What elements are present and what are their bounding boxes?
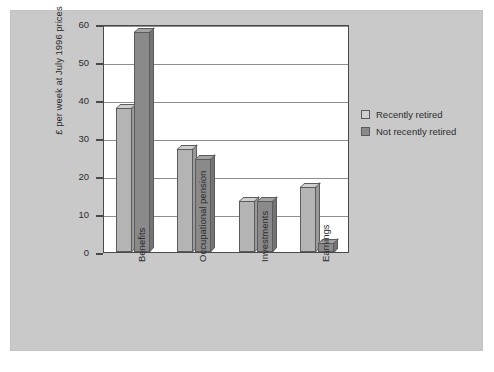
x-axis-label: Investments xyxy=(260,211,270,262)
y-axis-tick-label: 40 xyxy=(63,96,89,106)
y-axis-tick xyxy=(96,25,103,27)
y-axis-tick xyxy=(96,101,103,103)
chart-panel: £ per week at July 1996 prices 010203040… xyxy=(11,11,482,350)
bar-front-face xyxy=(116,108,132,252)
legend-item[interactable]: Recently retired xyxy=(361,106,456,123)
bar-front-face xyxy=(239,201,255,252)
bar xyxy=(239,201,255,252)
bar-front-face xyxy=(300,187,316,252)
y-axis-tick xyxy=(96,63,103,65)
bar-side-face xyxy=(211,154,215,252)
y-axis-tick-label: 10 xyxy=(63,210,89,220)
gridline xyxy=(104,26,348,27)
y-axis-tick xyxy=(96,253,103,255)
x-axis-label: Occupational pension xyxy=(198,171,208,262)
legend-label: Not recently retired xyxy=(376,126,456,137)
legend-label: Recently retired xyxy=(376,109,443,120)
legend-swatch-not-recently-retired xyxy=(361,127,370,136)
y-axis-tick xyxy=(96,139,103,141)
bar xyxy=(116,108,132,252)
bar-side-face xyxy=(150,27,154,252)
chart-figure: £ per week at July 1996 prices 010203040… xyxy=(0,0,494,372)
legend-swatch-recently-retired xyxy=(361,110,370,119)
y-axis-tick-label: 0 xyxy=(63,248,89,258)
bar-front-face xyxy=(134,32,150,252)
legend-item[interactable]: Not recently retired xyxy=(361,123,456,140)
bar xyxy=(177,149,193,252)
x-axis-label: Benefits xyxy=(137,228,147,262)
y-axis-tick-label: 50 xyxy=(63,58,89,68)
y-axis-tick-label: 60 xyxy=(63,20,89,30)
y-axis-title: £ per week at July 1996 prices xyxy=(53,0,64,156)
bar-front-face xyxy=(177,149,193,252)
chart-legend: Recently retired Not recently retired xyxy=(361,106,456,140)
plot-area xyxy=(103,25,349,253)
y-axis-tick xyxy=(96,215,103,217)
bar xyxy=(300,187,316,252)
y-axis-tick-label: 20 xyxy=(63,172,89,182)
x-axis-label: Earnings xyxy=(321,225,331,263)
y-axis-tick-label: 30 xyxy=(63,134,89,144)
bar xyxy=(134,32,150,252)
bar-side-face xyxy=(273,196,277,252)
y-axis-tick xyxy=(96,177,103,179)
